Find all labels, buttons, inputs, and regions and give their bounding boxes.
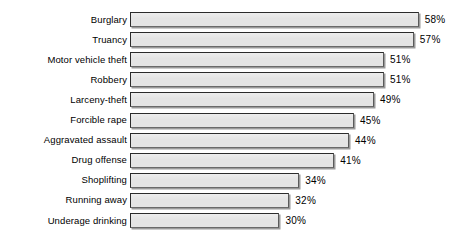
category-label: Shoplifting	[82, 170, 127, 190]
bar	[130, 12, 419, 27]
category-label: Forcible rape	[70, 110, 127, 130]
horizontal-bar-chart: Burglary58%Truancy57%Motor vehicle theft…	[0, 0, 473, 250]
chart-row: Shoplifting34%	[0, 170, 473, 190]
bar-highlight	[131, 134, 348, 140]
bar	[130, 173, 299, 188]
chart-row: Forcible rape45%	[0, 110, 473, 130]
bar-value-label: 41%	[340, 153, 361, 168]
bar	[130, 32, 414, 47]
chart-row: Burglary58%	[0, 10, 473, 30]
category-label: Underage drinking	[48, 211, 127, 231]
bar	[130, 72, 384, 87]
bar-value-label: 34%	[305, 173, 326, 188]
bar-highlight	[131, 194, 288, 200]
category-label: Motor vehicle theft	[47, 50, 127, 70]
bar	[130, 113, 354, 128]
bar	[130, 133, 349, 148]
chart-row: Truancy57%	[0, 30, 473, 50]
bar	[130, 92, 374, 107]
bar-value-label: 44%	[355, 133, 376, 148]
chart-row: Drug offense41%	[0, 150, 473, 170]
chart-row: Larceny-theft49%	[0, 90, 473, 110]
category-label: Running away	[66, 190, 127, 210]
category-label: Larceny-theft	[70, 90, 127, 110]
bar-value-label: 57%	[420, 32, 441, 47]
chart-row: Aggravated assault44%	[0, 130, 473, 150]
bar	[130, 193, 289, 208]
bar-highlight	[131, 174, 298, 180]
bar-value-label: 51%	[390, 72, 411, 87]
bar	[130, 213, 279, 228]
bar-highlight	[131, 13, 418, 19]
bar-highlight	[131, 114, 353, 120]
bar-value-label: 30%	[285, 213, 306, 228]
bar-highlight	[131, 53, 383, 59]
chart-row: Underage drinking30%	[0, 211, 473, 231]
bar-value-label: 51%	[390, 52, 411, 67]
category-label: Drug offense	[72, 150, 127, 170]
category-label: Truancy	[92, 30, 127, 50]
bar-highlight	[131, 93, 373, 99]
bar-highlight	[131, 154, 333, 160]
bar	[130, 52, 384, 67]
category-label: Robbery	[90, 70, 127, 90]
bar-highlight	[131, 33, 413, 39]
bar	[130, 153, 334, 168]
category-label: Burglary	[91, 10, 127, 30]
chart-row: Motor vehicle theft51%	[0, 50, 473, 70]
bar-highlight	[131, 214, 278, 220]
bar-value-label: 49%	[380, 92, 401, 107]
chart-row: Robbery51%	[0, 70, 473, 90]
bar-value-label: 32%	[295, 193, 316, 208]
bar-highlight	[131, 73, 383, 79]
bar-value-label: 58%	[425, 12, 446, 27]
bar-value-label: 45%	[360, 113, 381, 128]
chart-row: Running away32%	[0, 190, 473, 210]
category-label: Aggravated assault	[44, 130, 127, 150]
